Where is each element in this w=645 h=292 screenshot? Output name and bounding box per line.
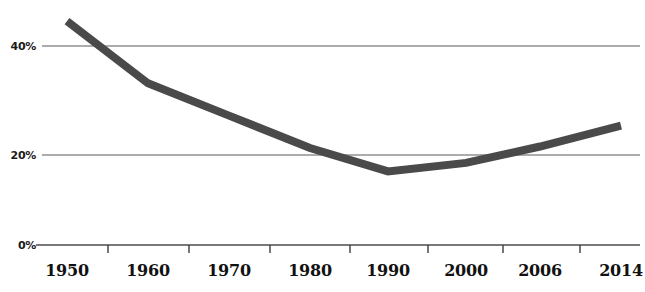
y-tick-label-40: 40% xyxy=(2,41,36,52)
y-tick-label-0: 0% xyxy=(2,240,36,251)
x-tick-label-1980: 1980 xyxy=(278,262,342,280)
x-tick-label-1970: 1970 xyxy=(197,262,261,280)
x-tick-label-2014: 2014 xyxy=(589,262,645,280)
x-axis-ticks xyxy=(108,245,580,253)
line-chart: 40% 20% 0% 1950 1960 1970 1980 1990 2000… xyxy=(0,0,645,292)
x-tick-label-2006: 2006 xyxy=(508,262,572,280)
chart-plot-area xyxy=(0,0,645,292)
y-tick-label-20: 20% xyxy=(2,150,36,161)
x-tick-label-1950: 1950 xyxy=(35,262,99,280)
x-tick-label-1990: 1990 xyxy=(356,262,420,280)
x-tick-label-1960: 1960 xyxy=(116,262,180,280)
x-tick-label-2000: 2000 xyxy=(434,262,498,280)
data-series-line xyxy=(67,21,621,171)
